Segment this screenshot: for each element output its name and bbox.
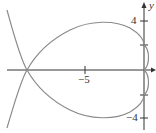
y-axis-arrow-icon [142,2,147,8]
y-axis-label: y [149,0,154,11]
y-tick-label-4: 4 [131,15,137,26]
x-axis-arrow-icon [151,68,156,73]
y-tick-label-neg4: −4 [126,112,138,123]
x-tick-label-neg5: −5 [78,74,90,85]
